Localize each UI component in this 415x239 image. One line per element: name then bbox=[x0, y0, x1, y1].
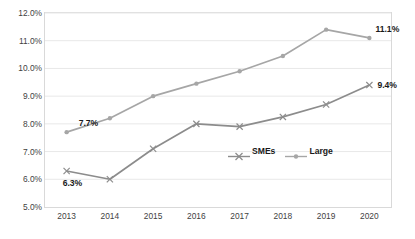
y-axis-tick-labels: 12.0%11.0%10.0%9.0%8.0%7.0%6.0%5.0% bbox=[0, 0, 42, 239]
point-value-label: 7.7% bbox=[79, 118, 99, 128]
y-tick-label: 8.0% bbox=[4, 119, 42, 129]
legend-label-smes: SMEs bbox=[252, 146, 275, 156]
y-tick-label: 9.0% bbox=[4, 91, 42, 101]
point-value-label: 11.1% bbox=[375, 24, 399, 34]
y-tick-label: 5.0% bbox=[4, 202, 42, 212]
x-tick-label: 2017 bbox=[230, 211, 249, 221]
series-layer bbox=[64, 27, 373, 182]
data-point-marker bbox=[108, 116, 112, 120]
legend-marker-circle-icon bbox=[285, 147, 307, 156]
legend-item-large[interactable]: Large bbox=[285, 146, 332, 156]
y-tick-label: 12.0% bbox=[4, 8, 42, 18]
x-tick-label: 2019 bbox=[317, 211, 336, 221]
y-tick-label: 6.0% bbox=[4, 174, 42, 184]
series-line-smes bbox=[67, 85, 370, 179]
data-point-marker bbox=[150, 146, 156, 152]
data-point-marker bbox=[366, 82, 372, 88]
data-point-marker bbox=[64, 130, 68, 134]
data-point-marker bbox=[324, 27, 328, 31]
point-value-label: 6.3% bbox=[63, 178, 83, 188]
point-value-label: 9.4% bbox=[377, 80, 397, 90]
x-tick-label: 2020 bbox=[360, 211, 379, 221]
legend-marker-x-icon bbox=[228, 147, 250, 156]
line-chart: 12.0%11.0%10.0%9.0%8.0%7.0%6.0%5.0% 2013… bbox=[0, 0, 415, 239]
legend-label-large: Large bbox=[309, 146, 332, 156]
data-point-marker bbox=[151, 94, 155, 98]
legend-item-smes[interactable]: SMEs bbox=[228, 146, 275, 156]
data-point-marker bbox=[194, 81, 198, 85]
data-point-marker bbox=[237, 69, 241, 73]
x-tick-label: 2013 bbox=[57, 211, 76, 221]
y-tick-label: 10.0% bbox=[4, 63, 42, 73]
y-tick-label: 11.0% bbox=[4, 36, 42, 46]
x-tick-label: 2015 bbox=[144, 211, 163, 221]
x-tick-label: 2018 bbox=[274, 211, 293, 221]
chart-canvas bbox=[0, 0, 415, 239]
y-tick-label: 7.0% bbox=[4, 147, 42, 157]
x-tick-label: 2014 bbox=[101, 211, 120, 221]
data-point-marker bbox=[367, 36, 371, 40]
series-line-large bbox=[67, 30, 370, 133]
gridlines bbox=[45, 13, 391, 179]
x-tick-label: 2016 bbox=[187, 211, 206, 221]
data-point-marker bbox=[281, 54, 285, 58]
chart-legend: SMEs Large bbox=[228, 146, 333, 156]
